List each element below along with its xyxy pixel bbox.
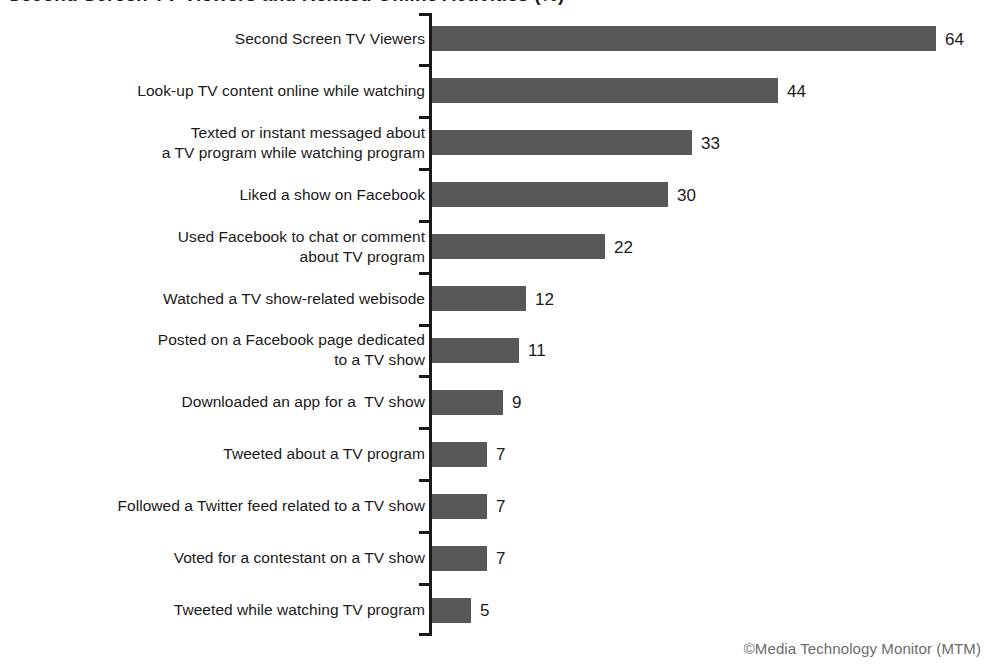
category-label: Liked a show on Facebook (239, 185, 425, 205)
bar (432, 286, 526, 311)
category-label: Look-up TV content online while watching (137, 81, 425, 101)
category-label: Downloaded an app for a TV show (182, 392, 425, 412)
axis-tick (419, 64, 432, 67)
category-label: Used Facebook to chat or comment about T… (178, 227, 425, 267)
bar-value-label: 7 (496, 550, 505, 567)
bar-value-label: 7 (496, 498, 505, 515)
axis-tick (419, 13, 432, 16)
axis-tick (419, 531, 432, 534)
bar (432, 234, 605, 259)
bar-value-label: 11 (528, 342, 546, 359)
chart-title: Second Screen TV Viewers and Related Onl… (8, 0, 968, 6)
axis-tick (419, 427, 432, 430)
category-label: Tweeted about a TV program (223, 444, 425, 464)
category-label: Texted or instant messaged about a TV pr… (162, 123, 425, 163)
bar-value-label: 9 (512, 394, 521, 411)
axis-tick (419, 272, 432, 275)
bar-value-label: 12 (535, 291, 554, 308)
bar (432, 442, 487, 467)
chart-credit: ©Media Technology Monitor (MTM) (744, 640, 981, 657)
category-label: Tweeted while watching TV program (174, 600, 425, 620)
axis-tick (419, 116, 432, 119)
bar-value-label: 22 (614, 239, 633, 256)
plot-area: Second Screen TV Viewers64Look-up TV con… (0, 13, 987, 637)
bar-value-label: 64 (945, 31, 964, 48)
bar (432, 130, 692, 155)
bar (432, 182, 668, 207)
axis-baseline-foot (419, 633, 432, 636)
axis-tick (419, 220, 432, 223)
bar-value-label: 30 (677, 187, 696, 204)
bar (432, 338, 519, 363)
bar (432, 598, 471, 623)
axis-tick (419, 375, 432, 378)
bar-chart: Second Screen TV Viewers and Related Onl… (0, 0, 987, 671)
axis-tick (419, 479, 432, 482)
category-label: Second Screen TV Viewers (235, 29, 425, 49)
category-label: Watched a TV show-related webisode (163, 289, 425, 309)
bar (432, 494, 487, 519)
bar (432, 26, 936, 51)
bar-value-label: 33 (701, 135, 720, 152)
category-label: Posted on a Facebook page dedicated to a… (158, 330, 425, 370)
bar-value-label: 7 (496, 446, 505, 463)
bar-value-label: 44 (787, 83, 806, 100)
axis-tick (419, 168, 432, 171)
bar-value-label: 5 (480, 602, 489, 619)
bar (432, 390, 503, 415)
category-label: Voted for a contestant on a TV show (174, 548, 425, 568)
bar (432, 546, 487, 571)
axis-tick (419, 324, 432, 327)
axis-tick (419, 583, 432, 586)
bar (432, 78, 778, 103)
category-label: Followed a Twitter feed related to a TV … (118, 496, 425, 516)
